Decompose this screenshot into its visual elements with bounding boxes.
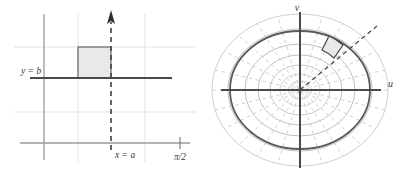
label-y-equals-b: y = b <box>20 66 41 76</box>
label-v-axis: v <box>295 2 300 13</box>
arrowhead-up-icon <box>107 10 115 24</box>
right-panel-uv-plane: v u <box>203 0 405 176</box>
conformal-mapping-figure: y = b x = a π/2 <box>0 0 405 176</box>
left-panel-xy-plane: y = b x = a π/2 <box>0 0 203 176</box>
right-panel-svg: v u <box>203 0 405 176</box>
label-u-axis: u <box>388 78 393 89</box>
left-panel-svg: y = b x = a π/2 <box>0 0 203 176</box>
label-pi-over-two: π/2 <box>174 152 186 162</box>
label-x-equals-a: x = a <box>114 150 135 160</box>
shaded-rectangle <box>78 47 111 78</box>
